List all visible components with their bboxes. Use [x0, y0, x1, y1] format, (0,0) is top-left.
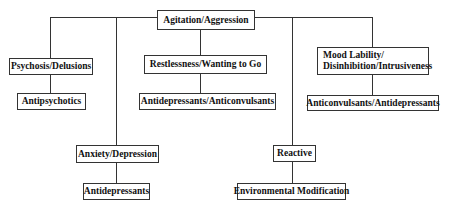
treatment-label: Antidepressants/Anticonvulsants	[141, 96, 274, 107]
connector-anxiety	[116, 17, 117, 145]
symptom-label: Anxiety/Depression	[78, 149, 157, 160]
symptom-label: Reactive	[277, 148, 312, 159]
symptom-node-psychosis: Psychosis/Delusions	[9, 58, 93, 75]
symptom-node-restlessness: Restlessness/Wanting to Go	[144, 55, 267, 74]
treatment-node-anticonvulsants-antidepressants: Anticonvulsants/Antidepressants	[307, 95, 439, 111]
treatment-node-environmental-modification: Environmental Modification	[237, 183, 346, 200]
symptom-node-mood-lability: Mood Lability/ Disinhibition/Intrusivene…	[317, 47, 429, 75]
root-node-agitation-aggression: Agitation/Aggression	[157, 10, 255, 30]
symptom-label: Restlessness/Wanting to Go	[150, 59, 261, 70]
treatment-label: Antidepressants	[84, 186, 149, 197]
connector-restlessness-treatment	[200, 74, 201, 93]
treatment-node-antidepressants-anticonvulsants: Antidepressants/Anticonvulsants	[139, 93, 276, 110]
treatment-node-antidepressants: Antidepressants	[83, 183, 150, 200]
connector-mood	[372, 17, 373, 47]
connector-psychosis	[50, 17, 51, 58]
root-node-label: Agitation/Aggression	[163, 15, 248, 26]
treatment-label: Environmental Modification	[234, 186, 350, 197]
symptom-node-reactive: Reactive	[273, 145, 316, 162]
connector-restlessness	[200, 30, 201, 55]
symptom-label: Psychosis/Delusions	[11, 61, 91, 72]
treatment-label: Antipsychotics	[22, 96, 82, 107]
treatment-label: Anticonvulsants/Antidepressants	[306, 98, 439, 109]
symptom-label-line2: Disinhibition/Intrusiveness	[323, 61, 432, 72]
connector-psychosis-treatment	[50, 75, 51, 93]
connector-reactive	[292, 17, 293, 145]
symptom-node-anxiety: Anxiety/Depression	[76, 145, 159, 163]
connector-anxiety-treatment	[116, 163, 117, 183]
connector-reactive-treatment	[292, 162, 293, 183]
symptom-label-line1: Mood Lability/	[323, 50, 432, 61]
treatment-node-antipsychotics: Antipsychotics	[17, 93, 86, 110]
connector-mood-treatment	[372, 75, 373, 95]
